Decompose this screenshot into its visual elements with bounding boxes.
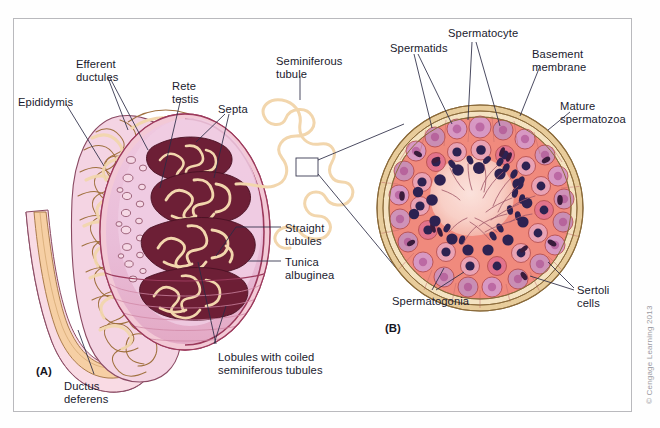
panel-a-id: (A): [36, 365, 52, 377]
label-lobules: Lobules with coiled seminiferous tubules: [218, 351, 323, 376]
label-septa: Septa: [218, 103, 248, 116]
label-spermatogonia: Spermatogonia: [392, 295, 469, 308]
panel-b-id: (B): [385, 322, 401, 334]
label-spermatocyte: Spermatocyte: [448, 27, 518, 40]
tubule-cross-section: [377, 105, 584, 311]
label-mature-spermatozoa: Mature spermatozoa: [560, 100, 626, 125]
label-efferent-ductules: Efferent ductules: [76, 58, 118, 83]
label-straight-tubules: Straight tubules: [285, 222, 324, 247]
label-rete-testis: Rete testis: [172, 80, 199, 105]
magnification-box: [296, 158, 318, 176]
label-spermatids: Spermatids: [390, 42, 448, 55]
label-sertoli-cells: Sertoli cells: [577, 284, 609, 309]
label-seminiferous-tubule: Seminiferous tubule: [276, 55, 343, 80]
label-tunica-albuginea: Tunica albuginea: [285, 256, 334, 281]
figure-canvas: Epididymis Efferent ductules Rete testis…: [0, 0, 660, 428]
label-basement-membrane: Basement membrane: [532, 48, 586, 73]
label-epididymis: Epididymis: [18, 96, 73, 109]
label-ductus-deferens: Ductus deferens: [64, 380, 108, 405]
copyright-notice: © Cengage Learning 2013: [645, 305, 654, 404]
